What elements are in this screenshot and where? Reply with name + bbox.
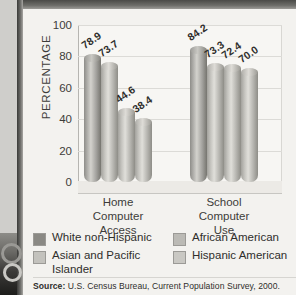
bar-value-label: 38.4 (130, 93, 154, 115)
chart-floor (78, 181, 282, 193)
bar-group: 84.273.372.470.0 (190, 25, 258, 182)
bar-body (84, 58, 101, 182)
adjacent-photo-sliver (0, 233, 17, 295)
bar (118, 112, 135, 182)
legend-label: African American (192, 231, 279, 245)
legend-label: Asian and Pacific Islander (52, 249, 173, 276)
legend-swatch-icon (173, 233, 186, 246)
source-divider (33, 277, 296, 278)
page-top-shadow (23, 0, 296, 9)
category-label-line: Computer (60, 209, 176, 223)
bar-cap (135, 118, 152, 126)
bar-body (207, 67, 224, 182)
y-tick-label: 60 (59, 82, 72, 94)
source-note: Source: U.S. Census Bureau, Current Popu… (33, 281, 296, 291)
y-tick-label: 80 (59, 50, 72, 62)
source-prefix: Source: (33, 281, 65, 291)
category-label-line: Computer (166, 209, 282, 223)
bar (224, 68, 241, 182)
bar (241, 72, 258, 182)
legend-swatch-icon (173, 251, 186, 264)
legend-column-right: African AmericanHispanic American (173, 231, 296, 267)
legend-item[interactable]: African American (173, 231, 296, 246)
legend-label: White non-Hispanic (52, 231, 152, 245)
y-tick-label: 100 (53, 19, 72, 31)
bar-body (224, 68, 241, 182)
legend-label: Hispanic American (192, 249, 287, 263)
bar-series-container: 78.973.744.638.484.273.372.470.0 (78, 25, 282, 182)
y-tick-label: 20 (59, 145, 72, 157)
bar-body (118, 112, 135, 182)
bar-cap (207, 63, 224, 71)
bar-chart: PERCENTAGE 100806040200 78.973.744.638.4… (23, 9, 296, 209)
bar-body (190, 50, 207, 182)
legend-swatch-icon (33, 251, 46, 264)
legend-item[interactable]: Asian and Pacific Islander (33, 249, 173, 276)
bar-body (241, 72, 258, 182)
legend-item[interactable]: Hispanic American (173, 249, 296, 264)
plot-area: 100806040200 78.973.744.638.484.273.372.… (78, 25, 282, 182)
legend-swatch-icon (33, 233, 46, 246)
figure-root: PERCENTAGE 100806040200 78.973.744.638.4… (0, 0, 296, 295)
y-tick-label: 40 (59, 113, 72, 125)
bar-body (135, 122, 152, 182)
bar (135, 122, 152, 182)
category-label-line: Home (60, 195, 176, 209)
bar (101, 66, 118, 182)
bar-group: 78.973.744.638.4 (84, 25, 152, 182)
bar (190, 50, 207, 182)
bar (207, 67, 224, 182)
photo-ring-shape (1, 243, 22, 264)
bar-value-label: 84.2 (185, 21, 209, 43)
photo-ring-shape-2 (3, 263, 22, 282)
chart-floor-face (78, 181, 282, 194)
y-tick-label: 0 (66, 176, 72, 188)
legend-column-left: White non-HispanicAsian and Pacific Isla… (33, 231, 173, 279)
legend-item[interactable]: White non-Hispanic (33, 231, 173, 246)
y-axis-label: PERCENTAGE (40, 17, 52, 137)
bar-body (101, 66, 118, 182)
category-label-line: School (166, 195, 282, 209)
chart-card: PERCENTAGE 100806040200 78.973.744.638.4… (23, 9, 296, 295)
source-text: U.S. Census Bureau, Current Population S… (68, 281, 280, 291)
bar (84, 58, 101, 182)
